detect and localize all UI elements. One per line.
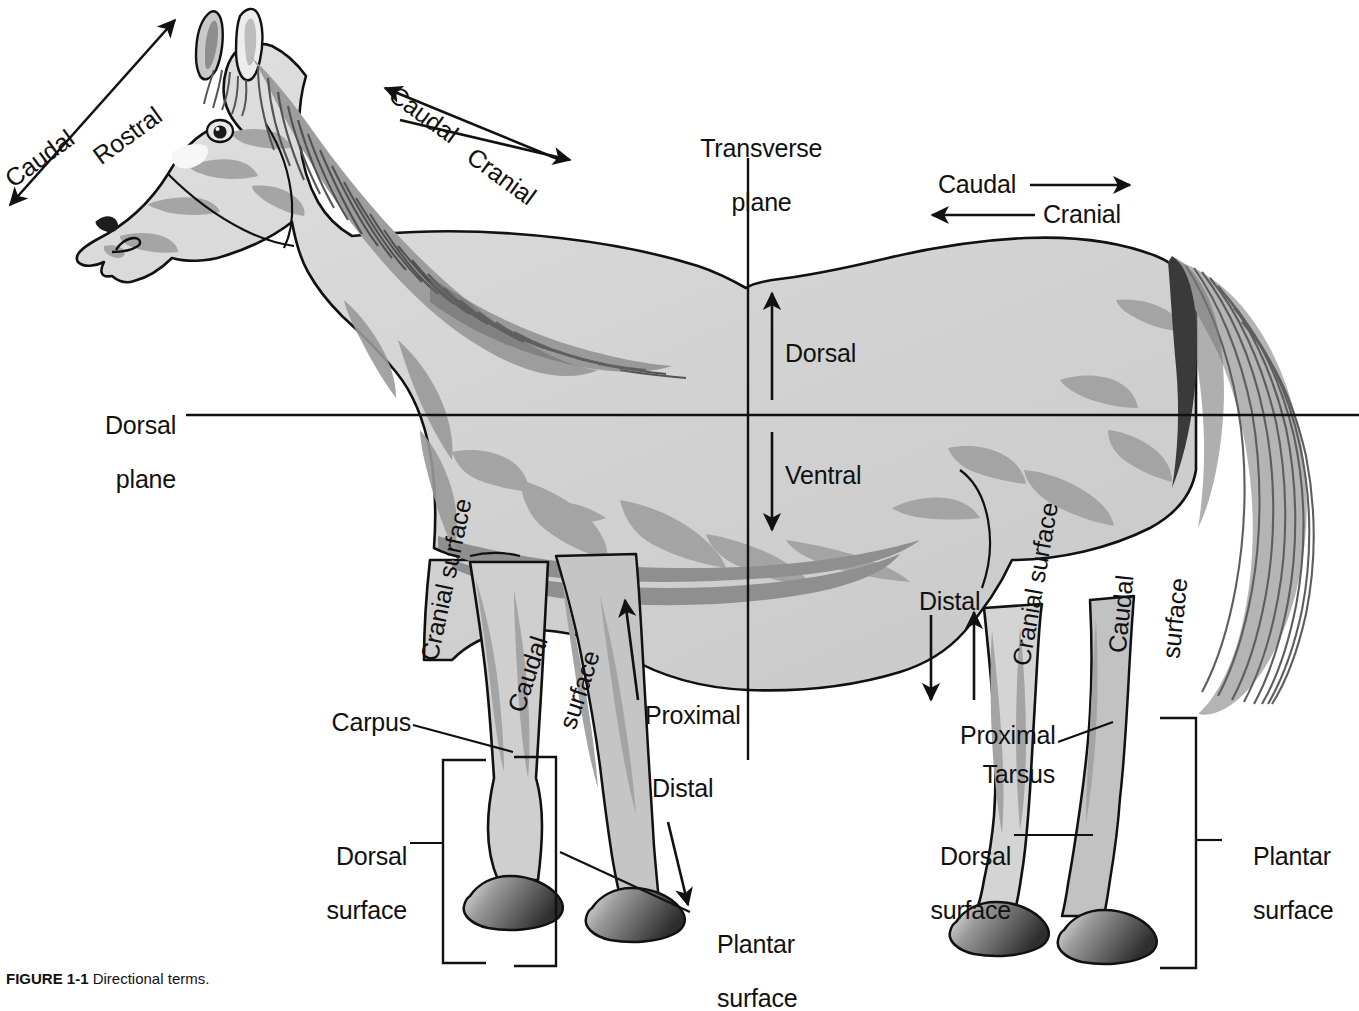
eye-highlight [216, 127, 220, 131]
dorsal-plane-line2: plane [116, 465, 176, 493]
label-hind-distal: Distal [919, 588, 980, 615]
hoof-fore-far [586, 888, 685, 942]
hind-plantar-line1: Plantar [1253, 842, 1331, 870]
transverse-plane-line1: Transverse [700, 134, 822, 162]
fore-plantar-line1: Plantar [717, 930, 795, 958]
label-carpus: Carpus [243, 709, 411, 736]
hind-dorsal-line1: Dorsal [940, 842, 1011, 870]
figure-caption-label: FIGURE 1-1 [6, 970, 89, 987]
hind-caudal-line2: surface [1156, 577, 1192, 660]
fore-plantar-line2: surface [717, 984, 798, 1011]
arrow-fore-distal [668, 822, 688, 905]
hind-caudal-line1: Caudal [1103, 574, 1139, 655]
label-hind-dorsal-surface: Dorsal surface [823, 816, 1011, 951]
label-transverse-plane: Transverse plane [628, 108, 868, 243]
fore-caudal-line1: Caudal [502, 633, 553, 716]
figure-caption-text: Directional terms. [93, 970, 210, 987]
label-ventral: Ventral [785, 462, 861, 489]
hind-plantar-line2: surface [1253, 896, 1334, 924]
fore-dorsal-line1: Dorsal [336, 842, 407, 870]
bracket-fore-dorsal [443, 760, 486, 963]
label-dorsal-plane: Dorsal plane [0, 385, 176, 520]
label-dorsal: Dorsal [785, 340, 856, 367]
hoof-fore-near [464, 876, 563, 930]
transverse-plane-line2: plane [731, 188, 791, 216]
label-fore-plantar-surface: Plantar surface [690, 904, 798, 1011]
hind-dorsal-line2: surface [930, 896, 1011, 924]
dorsal-plane-line1: Dorsal [105, 411, 176, 439]
label-fore-dorsal-surface: Dorsal surface [215, 816, 407, 951]
nostril [96, 216, 118, 232]
label-fore-proximal: Proximal [645, 702, 741, 729]
bracket-hind-plantar [1160, 718, 1196, 968]
fore-caudal-line2: surface [553, 647, 605, 732]
label-trunk-cranial: Cranial [1043, 201, 1121, 228]
label-hind-caudal-surface: Caudal surface [1074, 568, 1220, 689]
label-hind-proximal: Proximal [960, 722, 1056, 749]
hoof-hind-far [1058, 910, 1157, 964]
label-hind-plantar-surface: Plantar surface [1226, 816, 1334, 951]
fore-dorsal-line2: surface [326, 896, 407, 924]
pupil [213, 125, 226, 138]
label-tarsus: Tarsus [893, 761, 1055, 788]
figure-caption: FIGURE 1-1 Directional terms. [6, 970, 209, 987]
label-fore-distal: Distal [652, 775, 713, 802]
label-trunk-caudal: Caudal [938, 171, 1016, 198]
